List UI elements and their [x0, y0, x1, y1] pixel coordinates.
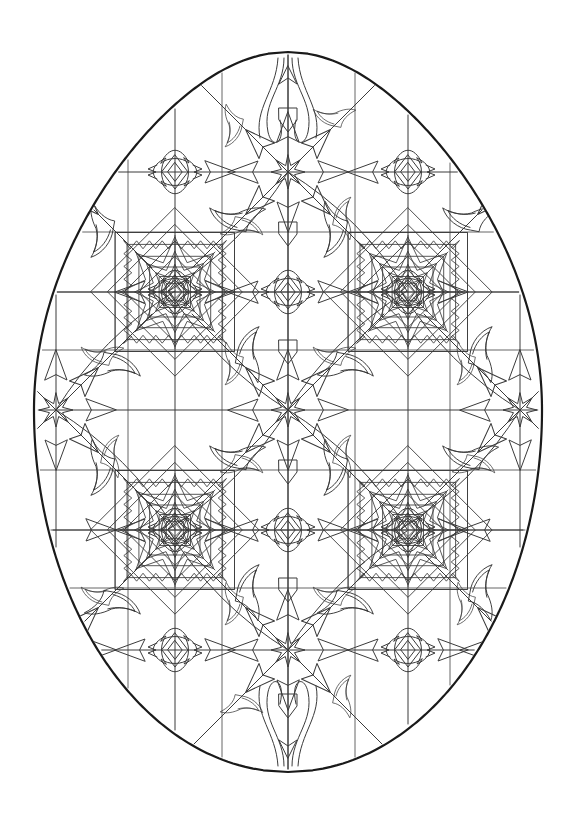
- spoke-diagonal: [520, 392, 538, 410]
- leaf-flourish: [311, 326, 356, 371]
- leaf-flourish: [79, 326, 124, 371]
- spoke-diagonal: [56, 314, 152, 410]
- rosette-strut: [135, 490, 169, 524]
- rosette-strut: [368, 490, 402, 524]
- rosette-panels: [91, 208, 492, 614]
- leaf-flourish-vein: [333, 438, 358, 463]
- leaf-flourish: [204, 103, 249, 148]
- spoke-diagonal: [38, 392, 56, 410]
- rosette-strut: [181, 490, 215, 524]
- tulip-curl-outer: [259, 686, 278, 766]
- rosette-strut: [414, 536, 448, 570]
- tulip-curl-outer: [259, 58, 278, 138]
- leaf-flourish-vein: [447, 198, 480, 231]
- spoke-diagonal: [38, 410, 56, 428]
- rosette-strut: [368, 536, 402, 570]
- leaf-flourish-vein: [218, 597, 243, 622]
- tulip-curl: [267, 58, 284, 142]
- leaf-flourish-vein: [103, 591, 136, 624]
- coloring-page-canvas: Decorated Easter Egg Coloring Page easte…: [0, 0, 582, 819]
- leaf-flourish: [326, 433, 371, 478]
- spoke-diagonal: [520, 410, 538, 428]
- leaf-flourish: [79, 566, 124, 611]
- leaf-flourish: [316, 582, 376, 642]
- leaf-flourish: [451, 448, 496, 493]
- rosette-strut: [181, 252, 215, 286]
- leaf-flourish-vein: [336, 353, 369, 386]
- leaf-flourish-vein: [84, 580, 109, 605]
- leaf-flourish: [83, 582, 143, 642]
- leaf-flourish-vein: [214, 436, 247, 469]
- leaf-flourish-vein: [235, 695, 260, 720]
- lattice-axes: [38, 55, 538, 769]
- leaf-flourish-vein: [447, 436, 480, 469]
- leaf-flourish-vein: [314, 458, 347, 491]
- leaf-flourish-vein: [235, 455, 260, 480]
- leaf-flourish-vein: [450, 597, 475, 622]
- diamond-nodes: [148, 150, 435, 672]
- leaf-flourish: [219, 688, 264, 733]
- leaf-flourishes: [64, 88, 520, 733]
- leaf-flourish: [326, 195, 371, 240]
- leaf-flourish-vein: [314, 220, 347, 253]
- leaf-flourish-vein: [236, 331, 269, 364]
- leaf-flourish-vein: [450, 357, 475, 382]
- leaf-flourish-vein: [214, 198, 247, 231]
- leaf-flourish: [297, 200, 357, 260]
- leaf-flourish-vein: [316, 102, 341, 127]
- leaf-flourish: [219, 448, 264, 493]
- leaf-flourish-vein: [336, 591, 369, 624]
- tulip-curl-outer: [298, 58, 317, 138]
- leaf-flourish: [440, 181, 500, 241]
- leaf-flourish-vein: [316, 580, 341, 605]
- rosette-strut: [414, 298, 448, 332]
- leaf-flourish: [94, 433, 139, 478]
- leaf-flourish-vein: [469, 331, 502, 364]
- spoke-diagonal: [202, 86, 288, 172]
- spoke-diagonal: [424, 410, 520, 506]
- leaf-flourish-vein: [218, 119, 243, 144]
- easter-egg-artwork: [0, 0, 582, 819]
- leaf-flourish-vein: [235, 217, 260, 242]
- rosette-strut: [181, 298, 215, 332]
- tulip-curl: [292, 58, 309, 142]
- spoke-diagonal: [288, 86, 374, 172]
- tulip-curl-outer: [298, 686, 317, 766]
- leaf-flourish-vein: [333, 200, 358, 225]
- rosette-strut: [181, 536, 215, 570]
- leaf-flourish: [219, 210, 264, 255]
- leaf-flourish-vein: [316, 340, 341, 365]
- rosette-strut: [135, 536, 169, 570]
- spoke-diagonal: [424, 210, 482, 268]
- rosette-strut: [368, 252, 402, 286]
- leaf-flourish-vein: [218, 357, 243, 382]
- leaf-flourish-vein: [333, 678, 358, 703]
- spoke-diagonal: [288, 314, 384, 410]
- egg-interior-pattern: [38, 55, 539, 769]
- rosette-strut: [414, 252, 448, 286]
- leaf-flourish: [311, 88, 356, 133]
- rosette-strut: [414, 490, 448, 524]
- leaf-flourish: [326, 673, 371, 718]
- spoke-diagonal: [192, 172, 288, 268]
- rosette-strut: [135, 252, 169, 286]
- leaf-flourish: [297, 438, 357, 498]
- spoke-diagonal: [192, 410, 288, 506]
- leaf-flourish: [204, 341, 249, 386]
- leaf-flourish-vein: [101, 438, 126, 463]
- leaf-flourish-vein: [84, 340, 109, 365]
- leaf-flourish: [311, 566, 356, 611]
